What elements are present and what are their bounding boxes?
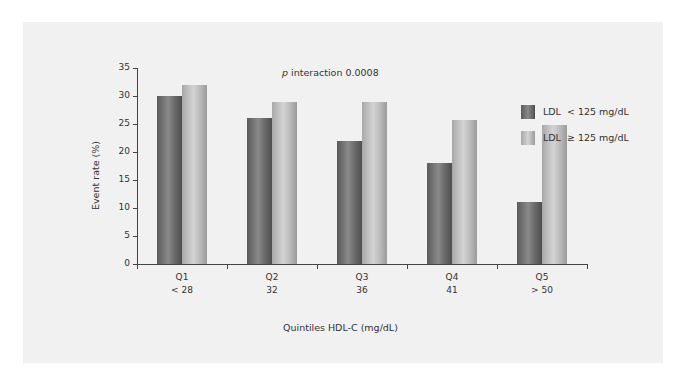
y-tick	[133, 124, 137, 125]
bar-ldl-low-q3	[337, 141, 362, 264]
bar-ldl-high-q2	[272, 102, 297, 264]
x-axis-label: Quintiles HDL-C (mg/dL)	[283, 322, 398, 333]
x-category-label-q4: Q441	[422, 271, 482, 297]
x-category-label-q1: Q1< 28	[152, 271, 212, 297]
quintile-value: 32	[242, 284, 302, 297]
y-tick	[133, 236, 137, 237]
y-tick-label: 5	[110, 230, 130, 240]
bar-ldl-low-q1	[157, 96, 182, 264]
p-interaction-annotation: p interaction 0.0008	[282, 67, 379, 78]
y-tick-label: 35	[110, 62, 130, 72]
y-tick	[133, 152, 137, 153]
quintile-value: < 28	[152, 284, 212, 297]
y-tick	[133, 180, 137, 181]
quintile-value: > 50	[512, 284, 572, 297]
y-tick-label: 25	[110, 118, 130, 128]
y-tick-label: 15	[110, 174, 130, 184]
y-tick-label: 0	[110, 258, 130, 268]
y-axis	[137, 68, 138, 265]
bar-ldl-high-q4	[452, 120, 477, 264]
quintile-name: Q2	[242, 271, 302, 284]
y-tick	[133, 96, 137, 97]
x-tick	[497, 264, 498, 269]
y-axis-label: Event rate (%)	[90, 141, 101, 211]
x-tick	[317, 264, 318, 269]
quintile-value: 41	[422, 284, 482, 297]
legend-label-ldl-high: LDL ≥ 125 mg/dL	[543, 132, 629, 143]
legend-swatch-ldl-high	[521, 131, 535, 145]
y-tick-label: 30	[110, 90, 130, 100]
x-tick	[137, 264, 138, 269]
x-category-label-q3: Q336	[332, 271, 392, 297]
quintile-name: Q3	[332, 271, 392, 284]
y-tick-label: 10	[110, 202, 130, 212]
y-tick	[133, 208, 137, 209]
x-category-label-q5: Q5> 50	[512, 271, 572, 297]
legend-swatch-ldl-low	[521, 105, 535, 119]
bar-ldl-low-q2	[247, 118, 272, 264]
quintile-name: Q5	[512, 271, 572, 284]
x-tick	[587, 264, 588, 269]
y-tick-label: 20	[110, 146, 130, 156]
x-category-label-q2: Q232	[242, 271, 302, 297]
y-tick	[133, 68, 137, 69]
bar-ldl-low-q5	[517, 202, 542, 264]
quintile-value: 36	[332, 284, 392, 297]
x-tick	[227, 264, 228, 269]
bar-ldl-high-q5	[542, 125, 567, 264]
quintile-name: Q4	[422, 271, 482, 284]
bar-ldl-high-q1	[182, 85, 207, 264]
quintile-name: Q1	[152, 271, 212, 284]
bar-ldl-high-q3	[362, 102, 387, 264]
p-interaction-text: interaction 0.0008	[288, 67, 379, 78]
bar-ldl-low-q4	[427, 163, 452, 264]
x-axis	[137, 264, 588, 265]
x-tick	[407, 264, 408, 269]
legend-label-ldl-low: LDL < 125 mg/dL	[543, 106, 629, 117]
